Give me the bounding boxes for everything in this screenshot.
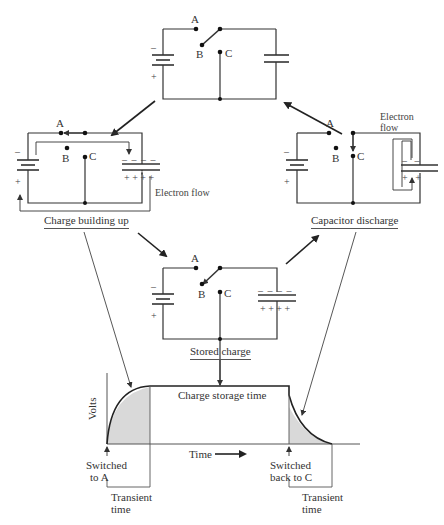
transient-time-1-line1: Transient xyxy=(111,491,152,503)
x-axis-label: Time xyxy=(189,448,212,460)
arrow-to-stored xyxy=(138,233,166,256)
battery-minus: – xyxy=(151,42,156,54)
arrow-to-charging xyxy=(112,101,155,135)
terminal-a-label: A xyxy=(56,117,64,129)
transient-time-1-line2: time xyxy=(111,503,131,515)
terminal-b-label: B xyxy=(196,48,203,60)
circuit-top xyxy=(152,29,289,99)
terminal-b-label: B xyxy=(198,288,205,300)
plateau-label: Charge storage time xyxy=(178,389,266,401)
capacitor-cycle-diagram xyxy=(0,0,444,525)
event-switched-to-a-line1: Switched xyxy=(86,459,127,471)
capacitor-negative-charges: – – xyxy=(402,155,420,167)
terminal-a-label: A xyxy=(191,13,199,25)
event-switched-to-c-line2: back to C xyxy=(270,471,312,483)
terminal-c-label: C xyxy=(225,47,232,59)
battery-plus: + xyxy=(151,310,157,322)
caption-capacitor-discharge: Capacitor discharge xyxy=(311,214,398,229)
capacitor-icon xyxy=(264,55,289,62)
terminal-b-label: B xyxy=(62,152,69,164)
capacitor-positive-charges: + + xyxy=(402,172,421,184)
electron-flow-label: Electron flow xyxy=(155,187,210,199)
battery-minus: – xyxy=(151,281,156,293)
electron-flow-label-line2: flow xyxy=(380,122,398,134)
arrow-to-discharge xyxy=(286,236,318,264)
terminal-b-label: B xyxy=(332,152,339,164)
capacitor-negative-charges: – – – – xyxy=(258,285,293,297)
terminal-c-label: C xyxy=(224,287,231,299)
terminal-a-label: A xyxy=(326,117,334,129)
event-switched-to-c-line1: Switched xyxy=(270,459,311,471)
caption-charge-building-up: Charge building up xyxy=(44,214,129,229)
battery-minus: – xyxy=(284,146,289,158)
terminal-c-label: C xyxy=(89,150,96,162)
transient-time-2-line2: time xyxy=(302,503,322,515)
circuit-discharging xyxy=(286,133,438,203)
y-axis-label: Volts xyxy=(86,398,98,420)
terminal-c-label: C xyxy=(357,150,364,162)
capacitor-positive-charges: + + + + xyxy=(260,303,290,315)
switch-blade xyxy=(202,29,220,45)
capacitor-positive-charges: + + + + xyxy=(124,172,154,184)
battery-minus: – xyxy=(15,146,20,158)
caption-stored-charge: Stored charge xyxy=(190,345,251,360)
battery-plus: + xyxy=(151,71,157,83)
battery-plus: + xyxy=(15,176,21,188)
capacitor-negative-charges: – – – – xyxy=(122,154,157,166)
terminal-a-label: A xyxy=(191,252,199,264)
event-switched-to-a-line2: to A xyxy=(90,471,109,483)
battery-plus: + xyxy=(284,176,290,188)
transient-time-2-line1: Transient xyxy=(302,491,343,503)
